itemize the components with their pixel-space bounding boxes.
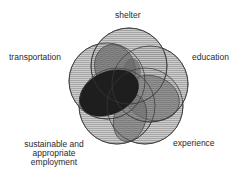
- label-employment-line-3: employment: [18, 158, 90, 167]
- label-experience: experience: [173, 139, 215, 148]
- label-transportation: transportation: [9, 53, 61, 62]
- label-employment: sustainable and appropriate employment: [18, 140, 90, 167]
- label-shelter: shelter: [115, 11, 141, 20]
- label-education: education: [192, 53, 229, 62]
